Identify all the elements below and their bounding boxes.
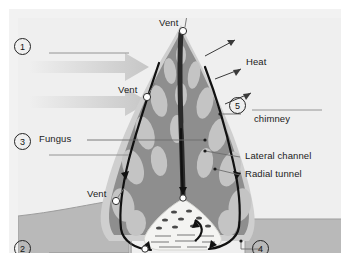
- number-marker-5[interactable]: 5: [229, 97, 246, 114]
- number-marker-2[interactable]: 2: [14, 240, 31, 253]
- diagram-stage: 1 2 3 4 5 Vent Vent Vent Heat Fungus chi…: [0, 0, 350, 265]
- label-vent-top: Vent: [159, 18, 178, 28]
- label-lateral-channel: Lateral channel: [245, 151, 311, 161]
- label-chimney: chimney: [254, 114, 290, 124]
- diagram-panel: 1 2 3 4 5 Vent Vent Vent Heat Fungus chi…: [9, 9, 341, 253]
- label-fungus: Fungus: [39, 134, 71, 144]
- label-vent-middle: Vent: [118, 85, 137, 95]
- number-marker-3[interactable]: 3: [14, 133, 31, 150]
- label-vent-lower: Vent: [87, 189, 106, 199]
- label-radial-tunnel: Radial tunnel: [245, 169, 302, 179]
- diagram-artwork: [9, 9, 341, 253]
- label-heat: Heat: [246, 57, 266, 67]
- number-marker-4[interactable]: 4: [252, 240, 269, 253]
- number-marker-1[interactable]: 1: [14, 38, 31, 55]
